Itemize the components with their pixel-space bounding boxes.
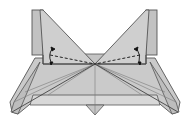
origami-diagram bbox=[0, 0, 188, 130]
right-triangle bbox=[95, 10, 149, 64]
left-triangle bbox=[40, 10, 95, 64]
right-flap bbox=[95, 10, 157, 64]
left-flap bbox=[32, 10, 95, 64]
